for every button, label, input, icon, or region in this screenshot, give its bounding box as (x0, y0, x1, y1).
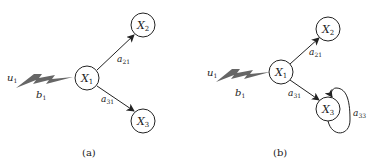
caption-b: (b) (273, 147, 287, 158)
edge-a31-label: a31 (288, 88, 301, 99)
edge-a21-label: a21 (117, 54, 130, 65)
input-b-label: b1 (235, 87, 245, 99)
diagram-canvas: u1 b1 X1 X2 X3 a21 a31 (a) u1 b1 X1 X2 X… (0, 0, 376, 168)
input-b-label: b1 (36, 89, 46, 101)
panel-a: u1 b1 X1 X2 X3 a21 a31 (a) (7, 13, 155, 158)
panel-b: u1 b1 X1 X2 X3 a21 a31 a33 (b) (207, 17, 366, 158)
edge-a21-label: a21 (309, 47, 322, 58)
input-bolt-icon (16, 74, 73, 88)
edge-a33-label: a33 (353, 108, 366, 119)
caption-a: (a) (82, 147, 96, 158)
input-u-label: u1 (207, 67, 217, 79)
input-u-label: u1 (7, 72, 17, 84)
input-bolt-icon (216, 69, 270, 82)
